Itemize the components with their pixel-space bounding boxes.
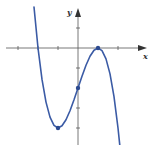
y-axis-arrow-icon	[75, 8, 81, 17]
local-minimum-point	[56, 126, 60, 130]
y-axis-label: y	[66, 7, 73, 17]
x-axis-label: x	[142, 51, 148, 61]
graph-canvas: y x	[0, 0, 153, 145]
function-graph: y x	[0, 0, 153, 145]
y-intercept-point	[76, 86, 80, 90]
local-maximum-point	[96, 46, 100, 50]
